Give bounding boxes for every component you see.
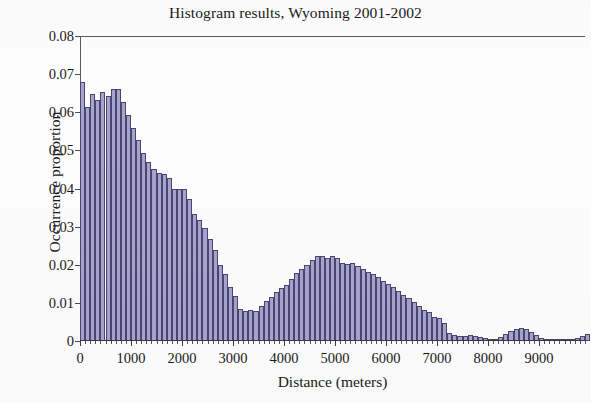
x-axis-minor-tick (248, 341, 249, 344)
x-axis-minor-tick (366, 341, 367, 344)
x-axis-minor-tick (167, 341, 168, 344)
x-axis-tick (335, 341, 336, 346)
x-axis-minor-tick (503, 341, 504, 344)
x-axis-minor-tick (457, 341, 458, 344)
x-axis-minor-tick (422, 341, 423, 344)
x-axis-minor-tick (151, 341, 152, 344)
x-axis-minor-tick (585, 341, 586, 344)
x-axis-minor-tick (355, 341, 356, 344)
x-axis-minor-tick (208, 341, 209, 344)
x-axis-minor-tick (483, 341, 484, 344)
x-axis-minor-tick (259, 341, 260, 344)
x-axis-tick-label: 6000 (372, 350, 401, 367)
x-axis-tick (182, 341, 183, 346)
y-axis-tick-label: 0.04 (49, 180, 74, 197)
x-axis-tick (437, 341, 438, 346)
y-axis-tick-label: 0.06 (49, 104, 74, 121)
x-axis-minor-tick (401, 341, 402, 344)
x-axis-minor-tick (111, 341, 112, 344)
x-axis-minor-tick (177, 341, 178, 344)
x-axis-tick-label: 9000 (525, 350, 554, 367)
x-axis-minor-tick (478, 341, 479, 344)
x-axis-minor-tick (269, 341, 270, 344)
x-axis-minor-tick (253, 341, 254, 344)
x-axis-minor-tick (442, 341, 443, 344)
x-axis-minor-tick (508, 341, 509, 344)
x-axis-minor-tick (381, 341, 382, 344)
x-axis-tick-label: 5000 (321, 350, 350, 367)
plot-inner: 00.010.020.030.040.050.060.070.08 010002… (80, 36, 585, 341)
x-axis-minor-tick (213, 341, 214, 344)
x-axis-tick (131, 341, 132, 346)
histogram-bars (80, 36, 585, 341)
x-axis-minor-tick (345, 341, 346, 344)
x-axis-minor-tick (361, 341, 362, 344)
x-axis-minor-tick (202, 341, 203, 344)
x-axis-minor-tick (197, 341, 198, 344)
y-axis-tick (75, 303, 80, 304)
x-axis-minor-tick (218, 341, 219, 344)
x-axis-minor-tick (264, 341, 265, 344)
x-axis-minor-tick (371, 341, 372, 344)
histogram-bar (585, 334, 590, 341)
y-axis-tick-label: 0.03 (49, 218, 74, 235)
x-axis-minor-tick (157, 341, 158, 344)
x-axis-minor-tick (350, 341, 351, 344)
x-axis-minor-tick (473, 341, 474, 344)
histogram-figure: Histogram results, Wyoming 2001-2002 Occ… (0, 0, 591, 403)
x-axis-minor-tick (524, 341, 525, 344)
y-axis-tick (75, 74, 80, 75)
x-axis-minor-tick (432, 341, 433, 344)
y-axis-tick-label: 0.07 (49, 66, 74, 83)
x-axis-minor-tick (187, 341, 188, 344)
x-axis-minor-tick (498, 341, 499, 344)
x-axis-tick-label: 8000 (474, 350, 503, 367)
x-axis-tick-label: 3000 (219, 350, 248, 367)
x-axis-minor-tick (549, 341, 550, 344)
plot-area: 00.010.020.030.040.050.060.070.08 010002… (80, 36, 585, 341)
y-axis-tick-label: 0.08 (49, 28, 74, 45)
x-axis-minor-tick (447, 341, 448, 344)
x-axis-minor-tick (106, 341, 107, 344)
x-axis-minor-tick (559, 341, 560, 344)
x-axis-tick-label: 7000 (423, 350, 452, 367)
x-axis-minor-tick (141, 341, 142, 344)
x-axis-tick-label: 1000 (117, 350, 146, 367)
x-axis-minor-tick (463, 341, 464, 344)
x-axis-minor-tick (514, 341, 515, 344)
x-axis-tick (488, 341, 489, 346)
x-axis-minor-tick (315, 341, 316, 344)
x-axis-minor-tick (452, 341, 453, 344)
x-axis-tick (284, 341, 285, 346)
x-axis-minor-tick (320, 341, 321, 344)
x-axis-minor-tick (554, 341, 555, 344)
y-axis-tick-label: 0.05 (49, 142, 74, 159)
x-axis-minor-tick (519, 341, 520, 344)
axis-spine-bottom (80, 340, 585, 341)
y-axis-tick (75, 189, 80, 190)
x-axis-tick (386, 341, 387, 346)
x-axis-minor-tick (85, 341, 86, 344)
y-axis-tick (75, 112, 80, 113)
x-axis-minor-tick (396, 341, 397, 344)
x-axis-minor-tick (575, 341, 576, 344)
x-axis-minor-tick (274, 341, 275, 344)
x-axis-minor-tick (289, 341, 290, 344)
x-axis-minor-tick (427, 341, 428, 344)
x-axis-minor-tick (100, 341, 101, 344)
x-axis-minor-tick (299, 341, 300, 344)
x-axis-minor-tick (580, 341, 581, 344)
x-axis-minor-tick (126, 341, 127, 344)
x-axis-minor-tick (304, 341, 305, 344)
x-axis-minor-tick (330, 341, 331, 344)
x-axis-minor-tick (238, 341, 239, 344)
x-axis-tick-label: 2000 (168, 350, 197, 367)
y-axis-tick-label: 0.02 (49, 256, 74, 273)
x-axis-tick-label: 4000 (270, 350, 299, 367)
x-axis-minor-tick (95, 341, 96, 344)
y-axis-tick (75, 227, 80, 228)
x-axis-minor-tick (570, 341, 571, 344)
x-axis-tick (233, 341, 234, 346)
x-axis-minor-tick (121, 341, 122, 344)
x-axis-minor-tick (534, 341, 535, 344)
